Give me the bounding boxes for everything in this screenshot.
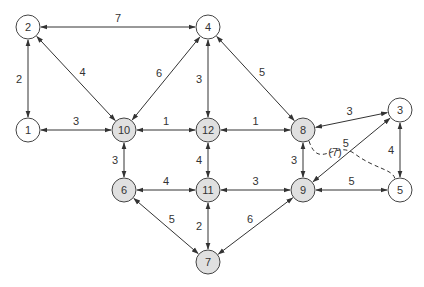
edge-10-12: 1 xyxy=(137,115,195,130)
node-3: 3 xyxy=(388,98,412,122)
edge-weight-label: 6 xyxy=(156,67,162,79)
edge-11-7: 2 xyxy=(196,203,208,249)
node-label: 4 xyxy=(205,21,211,33)
edge-weight-label: 5 xyxy=(348,175,354,187)
network-diagram: 724635311334354435526(7) 241101283611957 xyxy=(0,0,424,287)
edge-weight-label: 1 xyxy=(252,115,258,127)
dashed-edge-8-5: (7) xyxy=(309,141,395,179)
node-9: 9 xyxy=(291,178,315,202)
edge-weight-label: 3 xyxy=(347,105,353,117)
edge-12-8: 1 xyxy=(221,115,290,130)
edge-4-8: 5 xyxy=(217,37,294,121)
edge-4-12: 3 xyxy=(196,40,208,117)
node-label: 11 xyxy=(202,184,213,196)
edge-weight-label: 6 xyxy=(247,213,253,225)
edge-weight-label: 3 xyxy=(252,175,258,187)
edge-weight-label: 3 xyxy=(73,115,79,127)
node-4: 4 xyxy=(196,15,220,39)
edge-weight-label: 1 xyxy=(163,115,169,127)
graph-svg: 724635311334354435526(7) 241101283611957 xyxy=(0,0,424,287)
node-7: 7 xyxy=(196,250,220,274)
node-label: 2 xyxy=(25,21,31,33)
edge-weight-label: 5 xyxy=(169,213,175,225)
edge-weight-label: 3 xyxy=(291,154,297,166)
edge-weight-label: 3 xyxy=(112,154,118,166)
node-10: 10 xyxy=(112,118,136,142)
edge-6-11: 4 xyxy=(137,175,195,190)
edge-2-1: 2 xyxy=(16,40,28,117)
edge-weight-label: 5 xyxy=(343,137,349,149)
edge-10-6: 3 xyxy=(112,143,124,177)
node-label: 8 xyxy=(300,124,306,136)
node-12: 12 xyxy=(196,118,220,142)
node-label: 3 xyxy=(397,104,403,116)
node-label: 12 xyxy=(202,124,214,136)
node-label: 10 xyxy=(118,124,130,136)
node-1: 1 xyxy=(16,118,40,142)
edge-weight-label: 4 xyxy=(163,175,169,187)
node-label: 6 xyxy=(121,184,127,196)
edge-11-9: 3 xyxy=(221,175,290,190)
edge-weight-label: 2 xyxy=(16,73,22,85)
edge-weight-label: 4 xyxy=(80,66,86,78)
edge-3-5: 4 xyxy=(388,123,400,177)
dashed-edge-weight-label: (7) xyxy=(328,146,341,158)
edge-weight-label: 3 xyxy=(196,73,202,85)
edge-weight-label: 4 xyxy=(388,144,394,156)
node-5: 5 xyxy=(388,178,412,202)
edge-8-9: 3 xyxy=(291,143,303,177)
nodes-layer: 241101283611957 xyxy=(16,15,412,274)
node-label: 1 xyxy=(25,124,31,136)
edge-8-3: 3 xyxy=(316,105,388,127)
edge-12-11: 4 xyxy=(196,143,208,177)
node-label: 5 xyxy=(397,184,403,196)
edge-6-7: 5 xyxy=(134,198,198,253)
edge-4-10: 6 xyxy=(132,37,200,120)
edge-9-5: 5 xyxy=(316,175,387,190)
edge-2-4: 7 xyxy=(41,12,195,27)
node-label: 9 xyxy=(300,184,306,196)
edge-1-10: 3 xyxy=(41,115,111,130)
node-label: 7 xyxy=(205,256,211,268)
edge-weight-label: 2 xyxy=(196,220,202,232)
node-8: 8 xyxy=(291,118,315,142)
edge-weight-label: 7 xyxy=(115,12,121,24)
edge-9-7: 6 xyxy=(218,198,292,254)
edge-weight-label: 5 xyxy=(259,66,265,78)
node-11: 11 xyxy=(196,178,220,202)
node-6: 6 xyxy=(112,178,136,202)
edge-3-9: 5 xyxy=(313,118,390,181)
edge-2-10: 4 xyxy=(37,37,115,121)
node-2: 2 xyxy=(16,15,40,39)
edge-weight-label: 4 xyxy=(196,154,202,166)
